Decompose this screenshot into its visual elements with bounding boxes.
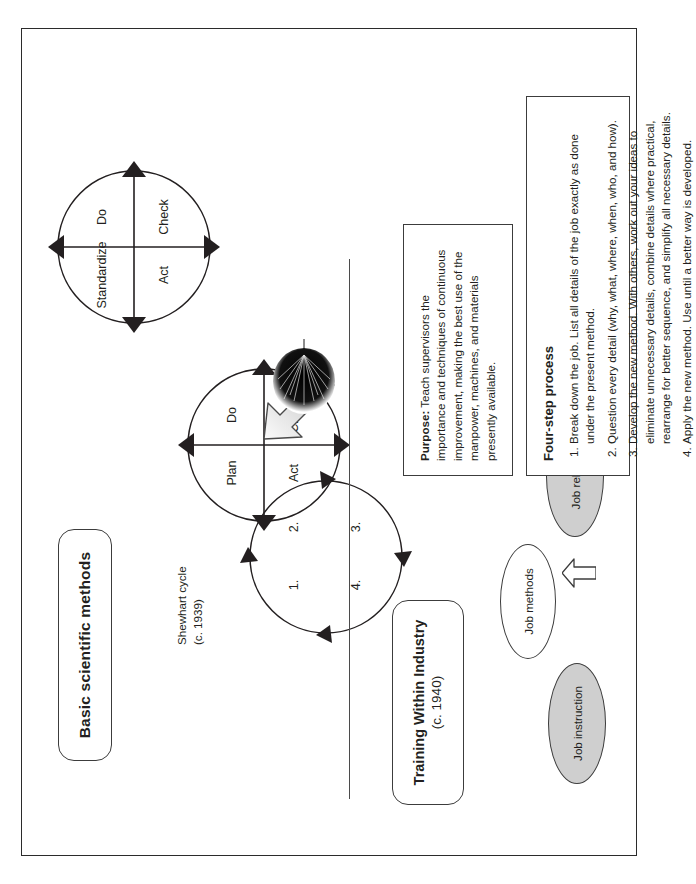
shewhart-step-1: 1. bbox=[287, 580, 301, 591]
tree-illustration bbox=[268, 337, 340, 425]
shewhart-step-4: 4. bbox=[349, 580, 363, 591]
process-step-4: Apply the new method. Use until a better… bbox=[679, 111, 695, 444]
shewhart-step-3: 3. bbox=[349, 522, 363, 533]
purpose-lead: Purpose: bbox=[418, 411, 431, 461]
pdca-quadrant-do: Do bbox=[225, 407, 239, 423]
sdca-quadrant-do: Do bbox=[95, 209, 109, 225]
twi-title-label: Training Within Industry bbox=[411, 620, 427, 786]
shewhart-cycle-diagram: 1. 2. 3. 4. bbox=[236, 467, 416, 647]
basic-scientific-methods-label: Basic scientific methods bbox=[75, 552, 94, 739]
basic-scientific-methods-title-box: Basic scientific methods bbox=[58, 529, 112, 761]
pillar-job-methods-label: Job methods bbox=[522, 568, 535, 634]
purpose-text-box: Purpose: Teach supervisors the importanc… bbox=[403, 224, 513, 476]
pillar-job-instruction-label: Job instruction bbox=[571, 686, 584, 761]
page-frame: Basic scientific methods Standardize Do … bbox=[21, 28, 637, 856]
process-step-2: Question every detail (why, what, where,… bbox=[604, 111, 620, 444]
pillar-job-methods: Job methods bbox=[500, 544, 556, 659]
sdca-quadrant-check: Check bbox=[157, 198, 171, 234]
twi-title-sub: (c. 1940) bbox=[429, 620, 446, 786]
shewhart-step-2: 2. bbox=[287, 522, 301, 533]
job-methods-pointer-arrow-icon bbox=[562, 547, 596, 599]
four-step-process-heading: Four-step process bbox=[540, 111, 559, 461]
process-step-3: Develop the new method. With others, wor… bbox=[625, 111, 674, 444]
shewhart-caption-line1: Shewhart cycle bbox=[174, 515, 190, 645]
four-step-process-list: Break down the job. List all details of … bbox=[566, 111, 696, 461]
section-divider bbox=[349, 259, 350, 799]
sdca-quadrant-standardize: Standardize bbox=[95, 241, 109, 308]
sdca-cycle-diagram: Standardize Do Check Act bbox=[44, 157, 224, 337]
twi-title-box: Training Within Industry (c. 1940) bbox=[392, 600, 464, 805]
sdca-quadrant-act: Act bbox=[157, 265, 171, 284]
four-step-process-box: Four-step process Break down the job. Li… bbox=[526, 96, 630, 476]
diagram-stage: Basic scientific methods Standardize Do … bbox=[22, 29, 638, 857]
shewhart-caption: Shewhart cycle (c. 1939) bbox=[174, 515, 205, 645]
process-step-1: Break down the job. List all details of … bbox=[566, 111, 599, 444]
shewhart-caption-line2: (c. 1939) bbox=[190, 515, 206, 645]
pillar-job-instruction: Job instruction bbox=[548, 663, 606, 784]
